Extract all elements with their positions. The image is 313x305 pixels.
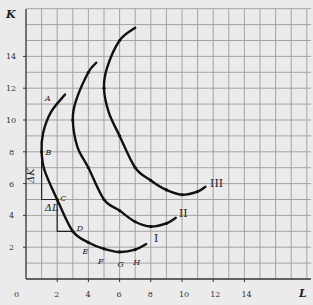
x-tick-label: 10 (179, 290, 189, 299)
delta-label: ΔK (25, 168, 36, 184)
data-point (118, 209, 121, 212)
y-tick-label: 6 (9, 180, 14, 189)
y-tick-label: 4 (9, 211, 14, 220)
data-point (102, 198, 105, 201)
data-point (40, 150, 43, 153)
point-label-F: F (97, 257, 104, 266)
tick-labels: 024681012142468101214 (6, 52, 252, 299)
point-label-G: G (118, 260, 125, 269)
data-point (165, 188, 168, 191)
data-point (118, 39, 121, 42)
curve-label-III: III (210, 177, 223, 190)
data-point (180, 193, 183, 196)
data-point (102, 87, 105, 90)
curve-label-II: II (179, 207, 188, 220)
data-point (87, 241, 90, 244)
x-tick-label: 8 (148, 290, 153, 299)
chart-grid (26, 9, 311, 279)
point-label-D: D (76, 224, 84, 233)
point-label-A: A (44, 94, 51, 103)
y-tick-label: 2 (9, 243, 14, 252)
x-tick-label: 6 (117, 290, 122, 299)
y-tick-label: 8 (9, 148, 14, 157)
data-point (87, 71, 90, 74)
data-point (149, 179, 152, 182)
data-point (71, 118, 74, 121)
data-point (87, 166, 90, 169)
y-tick-label: 12 (6, 84, 16, 93)
data-point (134, 166, 137, 169)
x-tick-label: 12 (210, 290, 220, 299)
annotations: ΔKΔLIIIIII (25, 168, 223, 246)
point-label-E: E (81, 247, 88, 256)
isoquant-chart: 024681012142468101214 K L ABCDEFGH ΔKΔLI… (0, 0, 313, 305)
x-tick-label: 14 (241, 290, 251, 299)
y-tick-label: 14 (6, 52, 16, 61)
data-point (118, 250, 121, 253)
x-tick-label: 4 (85, 290, 90, 299)
data-point (134, 220, 137, 223)
x-tick-label: 0 (14, 290, 19, 299)
x-axis-label: L (298, 287, 307, 300)
data-point (134, 248, 137, 251)
data-point (102, 247, 105, 250)
data-point (165, 222, 168, 225)
point-label-B: B (45, 148, 52, 157)
data-point (71, 230, 74, 233)
y-tick-label: 10 (6, 116, 16, 125)
data-point (196, 190, 199, 193)
y-axis-label: K (5, 8, 16, 21)
curve-label-I: I (154, 232, 158, 245)
data-point (56, 198, 59, 201)
point-label-C: C (60, 194, 66, 203)
data-point (149, 225, 152, 228)
x-tick-label: 2 (54, 290, 59, 299)
data-point (118, 134, 121, 137)
point-label-H: H (132, 258, 141, 267)
delta-label: ΔL (44, 202, 59, 213)
